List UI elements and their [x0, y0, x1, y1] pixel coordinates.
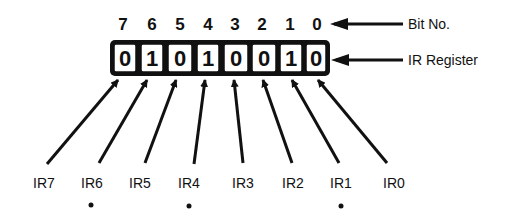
bit-number: 4	[203, 15, 213, 34]
input-arrow-ir2	[263, 80, 292, 163]
register-bit-value: 1	[146, 46, 158, 71]
marker-dot-ir4	[187, 204, 192, 209]
input-arrow-ir3	[234, 80, 243, 163]
input-arrows	[47, 80, 387, 164]
ir-register-diagram: 7 6 5 4 3 2 1 0 Bit No. 0 1 0 1 0 0 1 0	[0, 0, 513, 216]
input-label-ir6: IR6	[81, 175, 103, 191]
bit-number: 5	[175, 15, 184, 34]
bit-number: 6	[147, 15, 156, 34]
bit-number-row: 7 6 5 4 3 2 1 0	[118, 15, 321, 34]
active-markers	[89, 203, 344, 209]
input-label-ir4: IR4	[178, 175, 200, 191]
bit-no-annotation: Bit No.	[330, 16, 450, 32]
input-label-ir1: IR1	[330, 175, 352, 191]
arrowhead-left-icon	[331, 54, 349, 66]
register-bit-value: 1	[202, 46, 214, 71]
register-bit-value: 0	[310, 46, 322, 71]
bit-number: 3	[230, 15, 239, 34]
marker-dot-ir1	[339, 204, 344, 209]
bit-number: 0	[312, 15, 321, 34]
input-label-ir7: IR7	[33, 175, 55, 191]
bit-number: 1	[285, 15, 294, 34]
register-bit-value: 0	[119, 46, 131, 71]
bit-no-label: Bit No.	[408, 16, 450, 32]
register-bit-value: 0	[174, 46, 186, 71]
ir-register-label: IR Register	[408, 52, 478, 68]
marker-dot-ir6	[89, 203, 94, 208]
input-arrow-ir5	[145, 80, 176, 163]
register-bit-value: 1	[285, 46, 297, 71]
input-arrow-ir0	[318, 80, 387, 163]
input-label-ir2: IR2	[282, 175, 304, 191]
input-label-ir0: IR0	[383, 175, 405, 191]
ir-register-annotation: IR Register	[331, 52, 478, 68]
input-labels: IR7 IR6 IR5 IR4 IR3 IR2 IR1 IR0	[33, 175, 405, 191]
bit-number: 2	[257, 15, 266, 34]
input-arrow-ir4	[194, 80, 205, 164]
input-label-ir3: IR3	[232, 175, 254, 191]
input-label-ir5: IR5	[129, 175, 151, 191]
input-arrow-ir1	[292, 80, 339, 163]
register-bit-value: 0	[230, 46, 242, 71]
bit-number: 7	[118, 15, 127, 34]
register-bit-value: 0	[258, 46, 270, 71]
arrowhead-left-icon	[330, 18, 348, 30]
